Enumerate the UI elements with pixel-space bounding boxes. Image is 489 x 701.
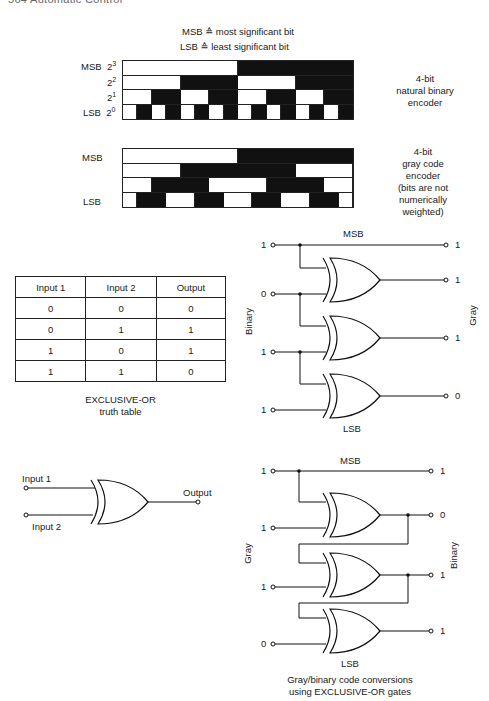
conversion-caption: Gray/binary code conversions using EXCLU… [280,674,420,698]
b2g-gray-axis-label: Gray [467,305,478,326]
g2b-input-3: 0 [261,638,266,649]
g2b-input-0: 1 [261,465,266,476]
g2b-output-1: 0 [440,509,445,520]
g2b-output-3: 1 [440,625,445,636]
gray-to-binary-circuit [271,469,433,653]
b2g-input-0: 1 [261,239,266,250]
b2g-output-0: 1 [455,239,460,250]
g2b-lsb-label: LSB [341,658,359,669]
binary-to-gray-circuit [271,243,448,418]
b2g-lsb-label: LSB [343,423,361,434]
b2g-output-1: 1 [455,274,460,285]
gate-diagrams [0,0,489,701]
g2b-input-2: 1 [261,581,266,592]
gate-input-1-label: Input 1 [22,473,51,484]
g2b-output-0: 1 [440,465,445,476]
b2g-input-2: 1 [261,346,266,357]
gate-input-2-label: Input 2 [32,521,61,532]
g2b-input-1: 1 [261,522,266,533]
g2b-binary-axis-label: Binary [448,542,459,569]
g2b-gray-axis-label: Gray [242,543,253,564]
g2b-msb-label: MSB [340,455,361,466]
b2g-binary-axis-label: Binary [243,308,254,335]
b2g-input-3: 1 [261,404,266,415]
g2b-output-2: 1 [440,569,445,580]
b2g-input-1: 0 [261,288,266,299]
b2g-msb-label: MSB [343,228,364,239]
b2g-output-3: 0 [455,390,460,401]
gate-output-label: Output [183,487,212,498]
b2g-output-2: 1 [455,332,460,343]
xor-gate-symbol [24,480,200,524]
